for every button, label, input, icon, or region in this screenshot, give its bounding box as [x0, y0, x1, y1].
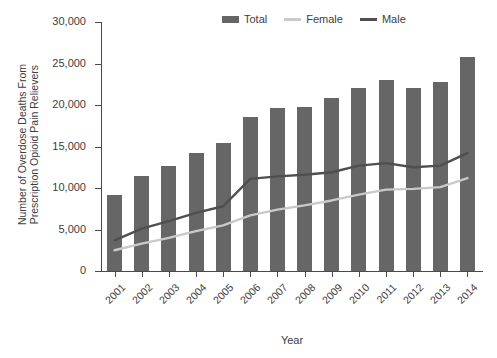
x-axis-title: Year: [101, 334, 483, 346]
x-axis-tick: [440, 271, 441, 277]
x-axis-tick: [277, 271, 278, 277]
x-axis-tick-label: 2010: [343, 281, 371, 309]
x-axis-tick: [250, 271, 251, 277]
y-axis-tick: 0: [95, 271, 101, 272]
x-axis-tick-label: 2005: [207, 281, 235, 309]
line-series-male: [115, 153, 468, 240]
x-axis-tick: [169, 271, 170, 277]
x-axis-tick-label: 2012: [397, 281, 425, 309]
x-axis-tick-label: 2009: [316, 281, 344, 309]
x-axis-tick-label: 2013: [424, 281, 452, 309]
y-axis-tick-label: 15,000: [52, 140, 86, 152]
x-axis-tick: [196, 271, 197, 277]
legend-swatch-female-icon: [284, 18, 301, 21]
line-series-layer: [101, 22, 481, 271]
x-axis-tick: [413, 271, 414, 277]
y-axis-title-line-1: Number of Overdose Deaths From: [17, 64, 28, 225]
x-axis-tick: [332, 271, 333, 277]
x-axis-tick-label: 2002: [126, 281, 154, 309]
x-axis-tick-label: 2008: [289, 281, 317, 309]
x-axis-tick-label: 2014: [452, 281, 480, 309]
y-axis-tick-label: 5,000: [58, 223, 86, 235]
x-axis-tick-label: 2011: [370, 281, 398, 309]
y-axis-tick-label: 30,000: [52, 15, 86, 27]
x-axis-tick: [305, 271, 306, 277]
x-axis-tick: [359, 271, 360, 277]
y-axis-tick-label: 0: [80, 264, 86, 276]
x-axis-tick-label: 2007: [262, 281, 290, 309]
x-axis-line: [101, 271, 483, 272]
opioid-overdose-deaths-chart: Number of Overdose Deaths From Prescript…: [0, 0, 497, 358]
x-axis-tick: [142, 271, 143, 277]
x-axis-tick-label: 2006: [234, 281, 262, 309]
x-axis-tick-label: 2003: [153, 281, 181, 309]
y-axis-tick-label: 10,000: [52, 181, 86, 193]
x-axis-tick: [386, 271, 387, 277]
plot-area: 30,00025,00020,00015,00010,0005,0000: [101, 22, 481, 271]
x-axis-tick: [115, 271, 116, 277]
x-axis-tick-label: 2001: [99, 281, 127, 309]
y-axis-title-line-2: Prescription Opioid Pain Relievers: [29, 65, 40, 224]
line-series-female: [115, 178, 468, 250]
y-axis-title: Number of Overdose Deaths From Prescript…: [0, 0, 56, 290]
legend-swatch-male-icon: [360, 18, 377, 21]
x-axis-tick: [223, 271, 224, 277]
x-axis-tick-label: 2004: [180, 281, 208, 309]
y-axis-tick-label: 25,000: [52, 57, 86, 69]
y-axis-tick-label: 20,000: [52, 98, 86, 110]
x-axis-tick: [467, 271, 468, 277]
